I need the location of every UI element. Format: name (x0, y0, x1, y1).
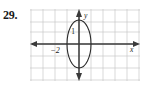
coordinate-plot: 1 −2 y x (30, 9, 140, 81)
x-axis (30, 41, 140, 47)
problem-number: 29. (3, 9, 17, 21)
ellipse-label: 1 (71, 27, 75, 36)
textbook-figure: 29. (0, 0, 148, 88)
y-axis-label: y (83, 11, 88, 20)
x-axis-label: x (129, 45, 134, 54)
x-tick-label: −2 (50, 46, 59, 55)
